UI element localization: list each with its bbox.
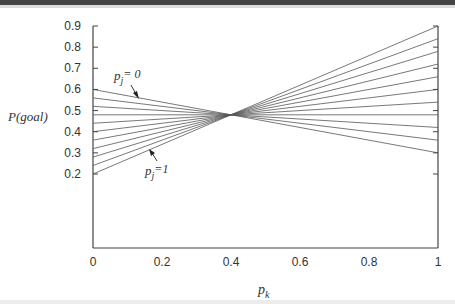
y-tick-label: 0.2	[64, 167, 81, 181]
y-tick-label: 0.5	[64, 104, 81, 118]
y-tick-label: 0.4	[64, 125, 81, 139]
x-tick-label: 0	[90, 255, 97, 269]
series-line	[93, 89, 438, 152]
y-tick-label: 0.9	[64, 19, 81, 33]
y-tick-label: 0.8	[64, 40, 81, 54]
series-line	[93, 77, 438, 140]
y-tick-label: 0.7	[64, 61, 81, 75]
x-tick-label: 0.8	[361, 255, 378, 269]
series-line	[93, 102, 438, 123]
x-tick-label: 0.4	[223, 255, 240, 269]
x-axis-ticks: 00.20.40.60.81	[90, 255, 442, 269]
series-line	[93, 64, 438, 149]
y-tick-label: 0.3	[64, 146, 81, 160]
series-line	[93, 39, 438, 166]
svg-text:pj= 0: pj= 0	[113, 67, 140, 86]
svg-text:pj=1: pj=1	[144, 162, 168, 181]
y-axis-label: P(goal)	[7, 109, 48, 124]
y-tick-label: 0.6	[64, 82, 81, 96]
series-line	[93, 26, 438, 174]
arrowhead-icon	[149, 149, 155, 156]
x-tick-label: 0.2	[154, 255, 171, 269]
annotation-pj-1: pj=1	[144, 149, 168, 181]
x-axis-label: pk	[257, 282, 270, 300]
arrowhead-icon	[133, 91, 139, 99]
y-axis-ticks: 0.90.80.70.60.50.40.30.2	[64, 19, 438, 181]
series-line	[93, 106, 438, 127]
x-tick-label: 0.6	[292, 255, 309, 269]
axes	[93, 26, 438, 248]
data-lines	[93, 26, 438, 174]
series-line	[93, 89, 438, 131]
line-chart: 0.90.80.70.60.50.40.30.2 00.20.40.60.81 …	[0, 0, 455, 304]
x-tick-label: 1	[435, 255, 442, 269]
